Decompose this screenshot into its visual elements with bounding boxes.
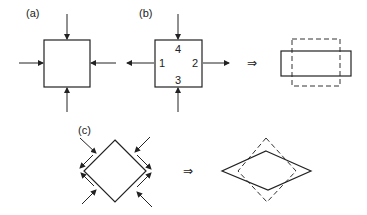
implies-arrow-icon: ⇒ bbox=[247, 56, 257, 70]
deformed-shape bbox=[222, 151, 311, 190]
face-number-2: 2 bbox=[192, 57, 198, 69]
shear-arrow-right-lower-icon bbox=[137, 173, 151, 187]
panel-a: (a) bbox=[19, 7, 116, 112]
face-number-1: 1 bbox=[159, 57, 165, 69]
shear-arrow-right-upper-icon bbox=[137, 155, 151, 169]
panel-a-label: (a) bbox=[26, 7, 39, 19]
arrow-ul-in-icon bbox=[80, 138, 96, 153]
panel-b-result bbox=[281, 39, 351, 86]
original-shape-dashed bbox=[292, 39, 340, 86]
implies-arrow-icon: ⇒ bbox=[183, 164, 193, 178]
panel-b-label: (b) bbox=[139, 7, 152, 19]
face-number-4: 4 bbox=[175, 43, 181, 55]
panel-c-label: (c) bbox=[78, 124, 91, 136]
stress-diagram: (a) (b) 1 2 3 4 ⇒ (c) bbox=[0, 0, 367, 215]
panel-c: (c) ⇒ bbox=[78, 124, 193, 207]
face-number-3: 3 bbox=[175, 74, 181, 86]
arrow-lr-in-icon bbox=[137, 192, 152, 207]
panel-b: (b) 1 2 3 4 ⇒ bbox=[127, 7, 257, 112]
square-element bbox=[44, 40, 90, 87]
shear-arrow-left-upper-icon bbox=[80, 155, 93, 168]
arrow-ur-in-icon bbox=[135, 137, 150, 152]
arrow-ll-in-icon bbox=[82, 190, 96, 204]
panel-c-result bbox=[222, 138, 311, 202]
original-shape-dashed bbox=[238, 138, 296, 202]
